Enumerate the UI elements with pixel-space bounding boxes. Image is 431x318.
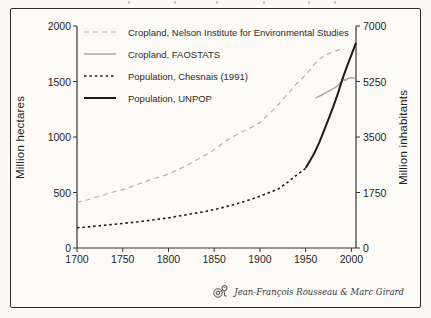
left-axis-title: Million hectares xyxy=(14,26,26,248)
x-tick-label: 1750 xyxy=(105,253,141,265)
legend-line-sample-icon xyxy=(83,71,117,81)
x-tick-label: 1950 xyxy=(288,253,324,265)
series-line-2 xyxy=(77,168,306,228)
legend: Cropland, Nelson Institute for Environme… xyxy=(83,21,349,109)
x-tick-label: 1850 xyxy=(196,253,232,265)
y-left-tick-label: 1500 xyxy=(35,76,71,88)
signature: Jean-François Rousseau & Marc Girard xyxy=(212,284,404,299)
legend-label: Population, UNPOP xyxy=(128,93,212,104)
x-tick-label: 1900 xyxy=(242,253,278,265)
legend-item-1: Cropland, FAOSTATS xyxy=(83,43,349,65)
cropped-text-remnant xyxy=(120,1,350,4)
legend-line-sample-icon xyxy=(83,49,117,59)
legend-label: Population, Chesnais (1991) xyxy=(128,71,248,82)
legend-item-2: Population, Chesnais (1991) xyxy=(83,65,349,87)
legend-line-sample-icon xyxy=(83,93,117,103)
x-tick-label: 1700 xyxy=(59,253,95,265)
legend-item-0: Cropland, Nelson Institute for Environme… xyxy=(83,21,349,43)
x-tick-label: 1800 xyxy=(150,253,186,265)
legend-item-3: Population, UNPOP xyxy=(83,87,349,109)
authors-logo-icon xyxy=(212,284,229,299)
legend-label: Cropland, FAOSTATS xyxy=(128,49,220,60)
legend-line-sample-icon xyxy=(83,27,117,37)
x-tick-label: 2000 xyxy=(333,253,369,265)
y-left-tick-label: 1000 xyxy=(35,131,71,143)
y-left-tick-label: 2000 xyxy=(35,20,71,32)
chart-frame: 1700175018001850190019502000050010001500… xyxy=(10,8,421,308)
right-axis-title: Million inhabitants xyxy=(397,26,409,248)
y-left-tick-label: 500 xyxy=(35,187,71,199)
signature-text: Jean-François Rousseau & Marc Girard xyxy=(234,287,404,297)
legend-label: Cropland, Nelson Institute for Environme… xyxy=(128,27,349,38)
y-left-tick-label: 0 xyxy=(35,242,71,254)
